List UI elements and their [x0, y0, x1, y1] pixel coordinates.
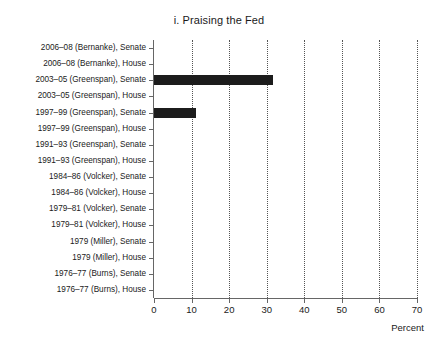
y-axis-tick-label: 2003–05 (Greenspan), Senate — [35, 76, 146, 84]
y-axis-tick — [149, 129, 154, 130]
y-axis-tick-label: 1984–86 (Volcker), Senate — [49, 173, 146, 181]
x-axis-tick — [154, 298, 155, 303]
y-axis-tick-label: 1991–93 (Greenspan), Senate — [35, 141, 146, 149]
x-axis-tick-label: 10 — [186, 305, 197, 315]
y-axis-tick — [149, 290, 154, 291]
y-axis-tick-label: 1979–81 (Volcker), Senate — [49, 205, 146, 213]
y-axis-tick — [149, 161, 154, 162]
x-axis-tick-label: 60 — [374, 305, 385, 315]
x-axis-tick-label: 40 — [299, 305, 310, 315]
y-axis-tick-label: 1976–77 (Burns), Senate — [55, 270, 147, 278]
y-axis-tick — [149, 242, 154, 243]
gridline — [417, 40, 418, 298]
x-axis-tick-label: 0 — [151, 305, 156, 315]
chart-figure: i. Praising the Fed 2006–08 (Bernanke), … — [0, 0, 438, 346]
bar — [154, 108, 196, 118]
y-axis-tick — [149, 274, 154, 275]
x-axis-tick-label: 50 — [337, 305, 348, 315]
x-axis-tick — [229, 298, 230, 303]
y-axis-tick-label: 2003–05 (Greenspan), House — [38, 92, 146, 100]
x-axis-tick-label: 20 — [224, 305, 235, 315]
y-axis-tick-label: 1991–93 (Greenspan), House — [38, 157, 146, 165]
bar — [154, 75, 273, 85]
y-axis-tick — [149, 96, 154, 97]
gridline — [304, 40, 305, 298]
y-axis-tick-label: 2006–08 (Bernanke), House — [43, 60, 146, 68]
x-axis-tick — [342, 298, 343, 303]
y-axis-tick — [149, 177, 154, 178]
x-axis-tick — [192, 298, 193, 303]
x-axis-title: Percent — [391, 323, 424, 333]
y-axis-tick-label: 1979 (Miller), Senate — [70, 237, 146, 245]
gridline — [342, 40, 343, 298]
y-axis-tick — [149, 193, 154, 194]
y-axis-tick-label: 1976–77 (Burns), House — [57, 286, 146, 294]
y-axis-tick — [149, 225, 154, 226]
x-axis-tick — [379, 298, 380, 303]
y-axis-tick — [149, 64, 154, 65]
plot-area: 2006–08 (Bernanke), Senate2006–08 (Berna… — [154, 40, 417, 298]
chart-title: i. Praising the Fed — [0, 14, 438, 26]
x-axis-tick-label: 30 — [261, 305, 272, 315]
y-axis-tick-label: 2006–08 (Bernanke), Senate — [41, 44, 146, 52]
y-axis-tick — [149, 209, 154, 210]
x-axis-tick-label: 70 — [412, 305, 423, 315]
y-axis-tick-label: 1979–81 (Volcker), House — [51, 221, 146, 229]
x-axis-tick — [417, 298, 418, 303]
y-axis-tick — [149, 145, 154, 146]
gridline — [379, 40, 380, 298]
y-axis-tick-label: 1997–99 (Greenspan), House — [38, 125, 146, 133]
x-axis-line — [154, 298, 418, 299]
y-axis-tick-label: 1997–99 (Greenspan), Senate — [35, 108, 146, 116]
y-axis-tick — [149, 258, 154, 259]
x-axis-tick — [304, 298, 305, 303]
y-axis-tick-label: 1984–86 (Volcker), House — [51, 189, 146, 197]
y-axis-tick-label: 1979 (Miller), House — [72, 254, 146, 262]
x-axis-tick — [267, 298, 268, 303]
y-axis-tick — [149, 48, 154, 49]
